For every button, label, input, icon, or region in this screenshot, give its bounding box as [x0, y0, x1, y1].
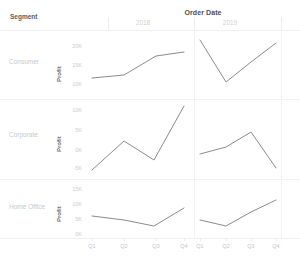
x-axis-rule: [0, 238, 300, 239]
pane-edge-right: [281, 30, 282, 238]
x-tick-mark: [156, 238, 157, 241]
row-separator-1: [0, 99, 300, 100]
y-tick-label: 0K: [58, 147, 82, 153]
x-tick-mark: [276, 238, 277, 241]
x-tick-mark: [226, 238, 227, 241]
header-rule: [0, 30, 300, 31]
header-tick-mid: [194, 17, 195, 30]
y-tick-label: 15K: [58, 186, 82, 192]
x-tick-mark: [92, 238, 93, 241]
header-tick-right: [281, 17, 282, 30]
tableau-small-multiples-chart: Segment Order Date 2018 2019 Consumer Pr…: [0, 0, 300, 268]
panel-consumer-2018[interactable]: [86, 34, 190, 98]
y-ticks-corporate: 10K 5K 0K -5K: [56, 99, 82, 179]
y-tick-label: 5K: [58, 127, 82, 133]
x-tick-mark: [200, 238, 201, 241]
x-tick-mark: [124, 238, 125, 241]
pane-divider-vertical: [194, 30, 195, 238]
x-tick-label-q3-2019: Q3: [240, 243, 262, 249]
row-label-home-office[interactable]: Home Office: [9, 203, 45, 210]
panel-consumer-2019[interactable]: [196, 34, 280, 98]
x-tick-label-q4-2019: Q4: [265, 243, 287, 249]
x-tick-mark: [251, 238, 252, 241]
y-tick-label: 10K: [58, 81, 82, 87]
y-tick-label: 10K: [58, 107, 82, 113]
panel-corporate-2019[interactable]: [196, 102, 280, 176]
x-tick-label-q2-2018: Q2: [113, 243, 135, 249]
panel-home-office-2019[interactable]: [196, 182, 280, 237]
row-label-consumer[interactable]: Consumer: [9, 58, 39, 65]
row-label-corporate[interactable]: Corporate: [9, 131, 38, 138]
y-tick-label: 0K: [58, 231, 82, 237]
header-tick-left: [108, 17, 109, 30]
panel-home-office-2018[interactable]: [86, 182, 190, 237]
panel-corporate-2018[interactable]: [86, 102, 190, 176]
x-tick-label-q3-2018: Q3: [145, 243, 167, 249]
y-tick-label: 15K: [58, 62, 82, 68]
x-tick-mark: [184, 238, 185, 241]
x-tick-label-q2-2019: Q2: [215, 243, 237, 249]
x-tick-label-q1-2018: Q1: [81, 243, 103, 249]
y-ticks-consumer: 20K 15K 10K: [56, 30, 82, 98]
x-tick-label-q1-2019: Q1: [189, 243, 211, 249]
y-tick-label: 20K: [58, 43, 82, 49]
y-tick-label: 5K: [58, 216, 82, 222]
year-header-2018[interactable]: 2018: [113, 19, 173, 26]
y-tick-label: 10K: [58, 201, 82, 207]
segment-column-header: Segment: [10, 13, 37, 20]
y-ticks-home-office: 15K 10K 5K 0K: [56, 179, 82, 238]
y-tick-label: -5K: [58, 165, 82, 171]
order-date-header: Order Date: [148, 9, 258, 16]
row-separator-2: [0, 179, 300, 180]
year-header-2019[interactable]: 2019: [200, 19, 260, 26]
